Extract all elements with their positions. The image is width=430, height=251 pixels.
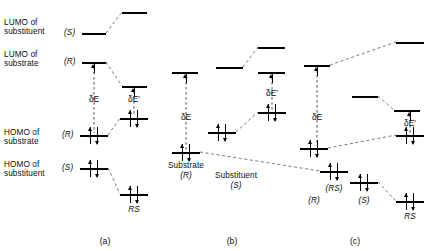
level-lumo-substituent-S [352,96,378,98]
gap-label-c-delta-e: δE [312,112,322,122]
lumo-substituent-label: LUMO of substituent [4,18,45,37]
species-tag-homo-substituent: (S) [62,163,73,172]
arrowhead-dn [411,141,415,145]
level-bar [258,112,286,114]
electron-pair-homo-substrate-R [80,127,108,144]
electron-pair-homo-complex-upper [120,110,148,127]
arrowhead-up [88,127,92,131]
electron-pair-homo-complex-lower [320,163,348,180]
gap-arrowhead [183,74,187,78]
correlation-a-1 [106,62,122,86]
correlation-c-1 [378,96,394,110]
arrowhead-dn [273,118,277,122]
arrowhead-up [216,124,220,128]
orbital-interaction-figure: LUMO of substituentLUMO of substrateHOMO… [0,0,430,251]
substrate-config-b: (R) [180,171,192,180]
gap-arrowhead [314,67,318,71]
species-tag-lumo-substrate: (R) [64,57,76,66]
arrowhead-dn [135,200,139,204]
arrowhead-dn [335,177,339,181]
species-tag-homo-substrate: (R) [62,130,74,139]
substituent-config-b: (S) [230,181,241,190]
complex-label-b: (RS) [325,184,342,193]
electron-pair-homo-substituent-S [80,160,108,177]
level-lumo-complex-upper [396,42,424,44]
correlation-b-1 [236,112,258,132]
arrowhead-up [128,110,132,114]
level-lumo-substituent-S [82,33,106,35]
level-bar [80,168,108,170]
arrowhead-dn [223,138,227,142]
substrate-label-b: Substrate [168,161,204,170]
homo-substituent-label: HOMO of substituent [4,160,45,179]
arrowhead-dn [95,174,99,178]
arrowhead-up [308,140,312,144]
substrate-config-c: (R) [308,196,320,205]
arrowhead-dn [365,188,369,192]
correlation-c-2 [328,135,396,148]
gap-label-b-delta-e-prime: δE' [266,88,278,98]
level-lumo-complex-upper [122,12,147,14]
gap-arrowhead [131,88,135,92]
gap-label-a-delta-e-prime: δE' [128,94,140,104]
complex-label-a: RS [128,205,140,214]
level-bar [172,152,200,154]
substituent-label-b: Substituent [215,171,257,180]
level-lumo-substituent-S [216,67,243,69]
panel-caption-c: (c) [350,236,360,246]
electron-pair-homo-complex-lower [120,186,148,203]
electron-pair-homo-substituent-S [350,174,378,191]
electron-pair-homo-complex-lower [396,193,424,210]
substituent-config-c: (S) [358,196,369,205]
arrowhead-up [404,193,408,197]
arrowhead-dn [95,141,99,145]
homo-substrate-label: HOMO of substrate [4,128,39,147]
arrowhead-dn [411,207,415,211]
complex-label-c: RS [404,212,416,221]
electron-pair-homo-substrate-R [300,140,328,157]
electron-pair-homo-substituent-S [208,124,236,141]
level-bar [208,132,236,134]
level-lumo-complex-upper [258,47,285,49]
species-tag-lumo-substituent: (S) [64,28,75,37]
arrowhead-up [180,144,184,148]
arrowhead-up [328,163,332,167]
correlation-c-0 [330,42,396,65]
arrowhead-dn [135,124,139,128]
arrowhead-up [128,186,132,190]
correlation-b-0 [243,47,258,67]
arrowhead-up [266,104,270,108]
level-bar [120,194,148,196]
arrowhead-dn [315,154,319,158]
electron-pair-homo-complex-upper [396,127,424,144]
level-bar [120,118,148,120]
arrowhead-up [88,160,92,164]
gap-arrowhead [91,64,95,68]
panel-caption-a: (a) [100,236,111,246]
electron-pair-homo-complex-upper [258,104,286,121]
arrowhead-up [358,174,362,178]
level-bar [350,182,378,184]
gap-label-c-delta-e-prime: δE' [404,118,416,128]
correlation-a-3 [108,168,120,194]
panel-caption-b: (b) [227,236,238,246]
lumo-substrate-label: LUMO of substrate [4,50,39,69]
electron-pair-homo-substrate-R [172,144,200,161]
correlation-a-2 [108,118,120,135]
gap-arrowhead [269,74,273,78]
level-bar [396,201,424,203]
gap-label-a-delta-e: δE [89,94,99,104]
correlation-a-0 [106,12,122,33]
gap-arrowhead [407,112,411,116]
correlation-c-3 [378,182,396,201]
level-bar [396,135,424,137]
gap-label-b-delta-e: δE [181,112,191,122]
level-bar [320,171,348,173]
level-bar [300,148,328,150]
level-bar [80,135,108,137]
